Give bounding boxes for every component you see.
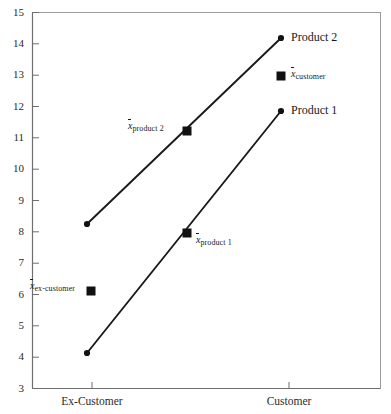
mean-marker-product-1 [183,229,192,238]
y-tick-label-13: 13 [2,69,24,80]
x-bar-symbol: x [128,120,132,131]
mean-label-customer: xcustomer [291,69,326,81]
series-label-product-2: Product 2 [291,31,337,43]
mean-subscript: customer [295,72,325,81]
y-tick-label-5: 5 [2,320,24,331]
plot-frame [33,13,381,389]
mean-marker-product-2 [183,127,192,136]
mean-marker-customer [277,72,286,81]
y-tick-label-10: 10 [2,163,24,174]
x-bar-symbol: x [30,280,34,291]
y-tick-label-3: 3 [2,383,24,394]
y-tick-label-8: 8 [2,226,24,237]
y-tick-label-4: 4 [2,351,24,362]
y-tick-label-6: 6 [2,289,24,300]
series-point-product-1-customer [278,108,284,114]
y-tick-label-7: 7 [2,257,24,268]
mean-subscript: product 1 [200,238,231,247]
y-tick-label-12: 12 [2,101,24,112]
mean-marker-ex-customer [87,287,96,296]
x-tick-label-customer: Customer [239,396,339,408]
x-bar-symbol: x [196,234,200,245]
mean-label-ex-customer: xex-customer [30,281,75,293]
mean-subscript: ex-customer [34,284,75,293]
series-point-product-1-ex-customer [84,350,90,356]
series-point-product-2-customer [278,35,284,41]
y-tick-label-14: 14 [2,38,24,49]
y-tick-label-11: 11 [2,132,24,143]
interaction-plot-chart: 15 14 13 12 11 10 9 8 7 6 5 4 3 Ex-Custo… [0,0,391,414]
mean-subscript: product 2 [132,124,163,133]
x-tick-label-ex-customer: Ex-Customer [32,396,152,408]
plot-canvas [0,0,391,414]
mean-label-product-1: xproduct 1 [196,235,232,247]
series-point-product-2-ex-customer [84,221,90,227]
series-label-product-1: Product 1 [291,104,337,116]
mean-label-product-2: xproduct 2 [128,121,164,133]
x-bar-symbol: x [291,68,295,79]
y-tick-label-9: 9 [2,195,24,206]
y-tick-label-15: 15 [2,7,24,18]
